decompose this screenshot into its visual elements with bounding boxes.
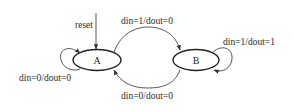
fsm-diagram: reset din=0/dout=0 din=1/dout=0 din=1/do… (0, 0, 294, 112)
transition-a-a-label: din=0/dout=0 (19, 73, 71, 83)
state-b-label: B (193, 55, 200, 66)
transition-a-b-edge (114, 27, 180, 52)
transition-b-a-label: din=0/dout=0 (121, 91, 173, 101)
transition-b-b-label: din=1/dout=1 (223, 37, 275, 47)
reset-label: reset (75, 20, 93, 30)
state-b: B (173, 50, 219, 71)
fsm-svg: reset din=0/dout=0 din=1/dout=0 din=1/do… (0, 0, 294, 112)
state-a-label: A (93, 55, 101, 66)
transition-b-a-edge (114, 70, 180, 88)
state-a: A (73, 50, 121, 71)
transition-a-b-label: din=1/dout=0 (121, 16, 173, 26)
